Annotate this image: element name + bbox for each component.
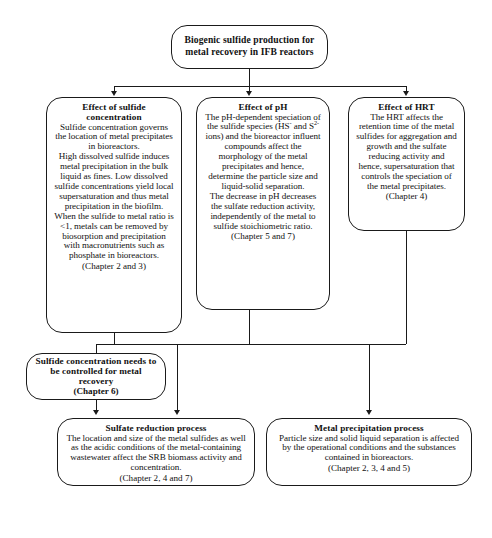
arrowhead-to-sulfate-reduction-left [93,410,99,415]
node-effect-of-hrt: Effect of HRT The HRT affects the retent… [348,97,465,231]
arrowhead-to-sulfide-node [111,91,117,96]
arrowhead-to-metal-precipitation [366,410,372,415]
connector-merge-to-sulfate-reduction [177,344,178,412]
connector-merge-bar [96,344,406,345]
node-root: Biogenic sulfide production for metal re… [171,25,328,69]
node-hrt-chapter: (Chapter 4) [386,192,428,202]
node-sulfate-reduction-process: Sulfate reduction process The location a… [57,418,255,486]
node-effect-of-sulfide-concentration: Effect of sulfide concentration Sulfide … [46,97,182,333]
node-metal-precipitation-paragraph-1: Particle size and solid liquid separatio… [274,434,464,464]
connector-root-stem [249,69,250,86]
node-ph-chapter: (Chapter 5 and 7) [231,232,295,242]
node-metal-precipitation-process: Metal precipitation process Particle siz… [266,418,472,486]
node-hrt-body: The HRT affects the retention time of th… [356,113,457,192]
node-sulfate-reduction-title: Sulfate reduction process [106,423,207,433]
node-conclusion-chapter: (Chapter 6) [73,387,118,397]
node-metal-precipitation-title: Metal precipitation process [314,423,423,433]
connector-merge-to-metal-precipitation [369,344,370,412]
node-conclusion-title: Sulfide concentration needs to be contro… [34,356,158,386]
node-sulfate-reduction-chapter: (Chapter 2, 4 and 7) [120,474,193,484]
node-sulfide-body: Sulfide concentration governs the locati… [54,123,174,262]
arrowhead-to-sulfate-reduction-mid [174,410,180,415]
node-sulfide-title: Effect of sulfide concentration [54,102,174,122]
node-metal-precipitation-chapter: (Chapter 2, 3, 4 and 5) [328,464,410,474]
node-sulfide-paragraph-1: Sulfide concentration governs the locati… [54,123,174,153]
node-effect-of-ph: Effect of pH The pH-dependent speciation… [196,97,330,310]
connector-distribution-bar [114,86,406,87]
node-sulfide-chapter: (Chapter 2 and 3) [82,262,146,272]
flowchart-canvas: Biogenic sulfide production for metal re… [0,0,492,538]
node-ph-paragraph-1: The pH-dependent speciation of the sulfi… [204,113,322,192]
node-metal-precipitation-body: Particle size and solid liquid separatio… [274,434,464,464]
connector-sulfide-tail [114,333,115,344]
node-sulfate-reduction-body: The location and size of the metal sulfi… [65,434,247,474]
node-hrt-title: Effect of HRT [378,102,435,112]
node-sulfide-paragraph-2: High dissolved sulfide induces metal pre… [54,152,174,211]
node-sulfide-paragraph-3: When the sulfide to metal ratio is <1, m… [54,212,174,262]
node-hrt-paragraph-1: The HRT affects the retention time of th… [356,113,457,192]
arrowhead-to-ph-node [246,91,252,96]
node-ph-paragraph-2: The decrease in pH decreases the sulfate… [204,192,322,232]
arrowhead-to-hrt-node [403,91,409,96]
node-sulfide-control-conclusion: Sulfide concentration needs to be contro… [26,353,166,400]
node-ph-title: Effect of pH [238,102,287,112]
connector-hrt-tail [406,231,407,344]
connector-merge-to-conclusion [96,344,97,354]
connector-ph-tail [249,310,250,344]
node-ph-body: The pH-dependent speciation of the sulfi… [204,113,322,232]
node-sulfate-reduction-paragraph-1: The location and size of the metal sulfi… [65,434,247,474]
connector-conclusion-to-sulfate-reduction [96,400,97,410]
node-root-title: Biogenic sulfide production for metal re… [179,34,320,58]
